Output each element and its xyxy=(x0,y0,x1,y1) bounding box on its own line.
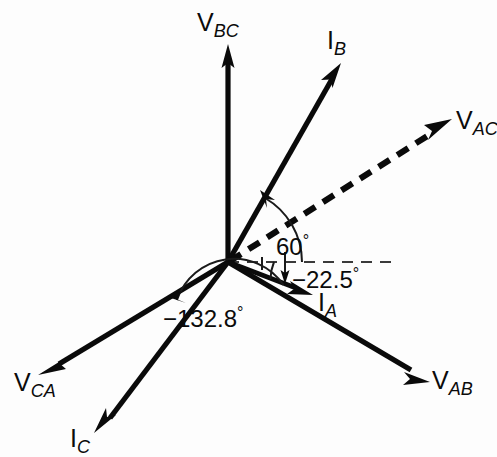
phasor-label-v-ab: VAB xyxy=(432,368,473,398)
phasor-label-i-b-sub: B xyxy=(334,39,346,59)
phasor-label-i-a-sub: A xyxy=(325,301,337,321)
phasor-label-i-c: IC xyxy=(70,426,90,456)
phasor-label-v-ca-sub: CA xyxy=(31,381,56,401)
phasor-v-ac xyxy=(230,119,452,261)
phasor-v-ab-arrowhead xyxy=(403,372,430,385)
phasor-i-c-shaft xyxy=(110,262,228,418)
angle-label-60-value: 60 xyxy=(276,233,303,260)
angle-label-minus-132-8-value: −132.8 xyxy=(163,305,237,332)
phasor-v-bc xyxy=(222,44,235,262)
phasor-label-v-bc-sub: BC xyxy=(214,21,239,41)
angle-label-60-degree-symbol: ° xyxy=(303,232,309,249)
phasor-diagram-canvas xyxy=(0,0,497,457)
angle-label-minus-132-8-degree-symbol: ° xyxy=(237,304,243,321)
phasor-label-v-ac-base: V xyxy=(456,106,473,134)
phasor-diagram: VBC IB VAC IA VAB VCA IC 60° −22.5° −132… xyxy=(0,0,497,457)
phasor-label-i-a: IA xyxy=(318,290,337,320)
phasor-label-i-c-base: I xyxy=(70,424,77,452)
phasor-i-c xyxy=(94,262,228,433)
angle-label-minus-22-5-value: −22.5 xyxy=(292,266,353,293)
phasor-label-v-ac-sub: AC xyxy=(473,119,497,139)
phasor-label-i-c-sub: C xyxy=(77,437,90,457)
phasor-label-i-b: IB xyxy=(327,28,346,58)
phasor-label-v-bc: VBC xyxy=(197,10,239,40)
phasor-label-v-bc-base: V xyxy=(197,8,214,36)
angle-label-minus-22-5: −22.5° xyxy=(292,266,359,292)
phasor-v-ac-shaft xyxy=(230,133,432,261)
phasor-label-i-b-base: I xyxy=(327,26,334,54)
phasor-label-v-ac: VAC xyxy=(456,108,497,138)
phasor-v-ac-arrowhead xyxy=(424,119,452,140)
phasor-label-v-ab-sub: AB xyxy=(449,379,473,399)
angle-label-minus-22-5-degree-symbol: ° xyxy=(353,265,359,282)
phasor-label-v-ab-base: V xyxy=(432,366,449,394)
phasor-label-v-ca: VCA xyxy=(14,370,56,400)
angle-label-minus-132-8: −132.8° xyxy=(163,305,243,331)
angle-label-60: 60° xyxy=(276,233,309,259)
phasor-label-v-ca-base: V xyxy=(14,368,31,396)
